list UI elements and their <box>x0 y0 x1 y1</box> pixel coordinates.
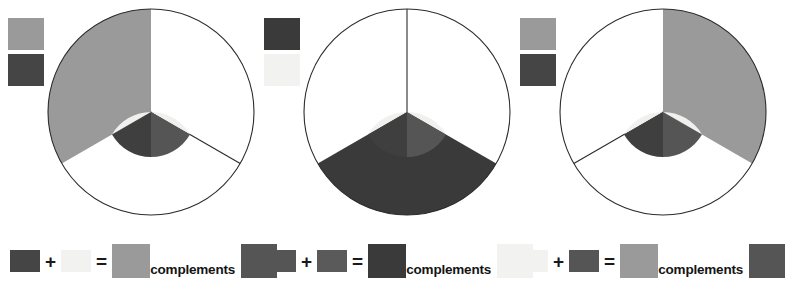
legend-swatch-result <box>620 244 658 278</box>
color-wheel-one <box>44 2 256 226</box>
swatch-pair-one <box>8 18 44 86</box>
legend-row-one: + = complements <box>0 230 256 301</box>
legend-swatch-b <box>317 250 347 272</box>
wheel-svg-three <box>556 2 768 226</box>
swatch-top <box>520 18 556 50</box>
swatch-top <box>264 18 300 50</box>
swatch-bottom <box>520 54 556 86</box>
swatch-pair-two <box>264 18 300 86</box>
swatch-pair-three <box>520 18 556 86</box>
legend-swatch-b <box>61 250 91 272</box>
legend-plus-sign: + <box>296 252 317 271</box>
legend-row-three: + = complements <box>508 230 764 301</box>
wheel-svg-one <box>44 2 256 226</box>
legend-complements-label: complements <box>150 262 235 278</box>
legend-swatch-b <box>569 250 599 272</box>
legend-swatch-a <box>10 250 40 272</box>
legend-equals-sign: = <box>91 252 112 271</box>
swatch-bottom <box>8 54 44 86</box>
swatch-bottom <box>264 54 300 86</box>
legend-equals-sign: = <box>347 252 368 271</box>
swatch-top <box>8 18 44 50</box>
legend-swatch-result <box>112 244 150 278</box>
color-wheel-three <box>556 2 768 226</box>
legend-plus-sign: + <box>40 252 61 271</box>
wheel-panel-one <box>0 0 256 230</box>
legend-row-two: + = complements <box>256 230 512 301</box>
wheel-svg-two <box>300 2 512 226</box>
legend-complements-label: complements <box>658 262 743 278</box>
color-wheel-two <box>300 2 512 226</box>
legend-swatch-a <box>518 250 548 272</box>
legend-complements-label: complements <box>406 262 491 278</box>
legend-swatch-result <box>368 244 406 278</box>
legend-swatch-a <box>266 250 296 272</box>
wheel-panel-two <box>256 0 512 230</box>
legend-equals-sign: = <box>599 252 620 271</box>
wheel-panel-three <box>512 0 768 230</box>
legend-swatch-complement <box>749 244 785 278</box>
legend-plus-sign: + <box>548 252 569 271</box>
